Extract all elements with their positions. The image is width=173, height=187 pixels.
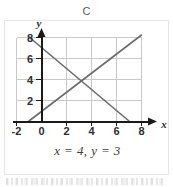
line-ascending (29, 35, 142, 121)
x-tick-label-6: 6 (113, 125, 119, 136)
x-tick-label-2: 2 (63, 125, 69, 136)
coordinate-plane-graph: 8 6 4 2 -2 0 2 4 6 8 y x (5, 21, 170, 136)
y-axis-label: y (35, 21, 42, 29)
figure-caption-row: x = 4, y = 3 (5, 138, 170, 164)
y-tick-label-4: 4 (27, 74, 34, 86)
y-tick-label-2: 2 (27, 95, 33, 107)
y-axis-arrow-icon (38, 28, 46, 37)
x-axis-arrow-icon (148, 118, 157, 126)
scan-artifact (6, 178, 166, 185)
figure-card: 8 6 4 2 -2 0 2 4 6 8 y x x = 4, y = 3 (4, 20, 169, 175)
solution-caption: x = 4, y = 3 (54, 143, 120, 159)
x-tick-label-8: 8 (138, 125, 144, 136)
figure-title: C (82, 5, 90, 17)
x-tick-label-0: 0 (38, 125, 44, 136)
figure-title-row: C (0, 0, 173, 21)
x-tick-label-m2: -2 (12, 125, 22, 136)
x-axis-label: x (160, 118, 167, 130)
y-tick-label-8: 8 (27, 32, 33, 44)
figure-screenshot: C (0, 0, 173, 187)
y-tick-label-6: 6 (27, 53, 33, 65)
x-tick-label-4: 4 (88, 125, 95, 136)
plot-area: 8 6 4 2 -2 0 2 4 6 8 y x (5, 21, 170, 136)
